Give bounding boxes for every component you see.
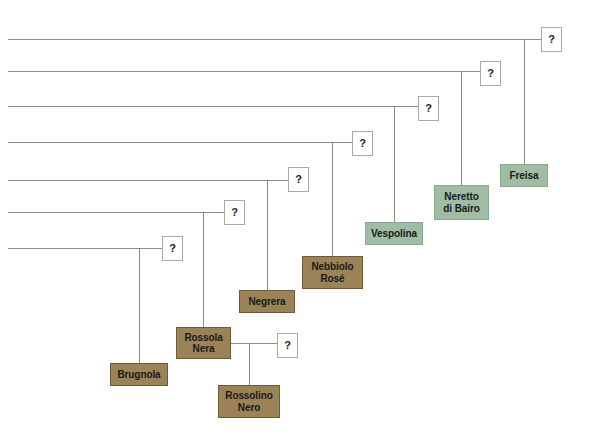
variety-node-vespolina[interactable]: Vespolina [365,222,423,245]
variety-node-brugnola[interactable]: Brugnola [110,363,168,386]
unknown-parent-node-q4[interactable]: ? [352,131,373,156]
variety-node-label-line: di Bairo [443,203,479,214]
variety-node-label-line: Nebbiolo [312,261,354,272]
unknown-parent-node-q3[interactable]: ? [418,96,439,121]
variety-node-label-line: Nera [184,343,222,354]
connector-vline [267,180,268,290]
connector-hline [8,142,352,143]
connector-hline [8,180,288,181]
variety-node-label-line: Nero [225,402,272,413]
connector-hline [8,212,224,213]
unknown-parent-node-q7[interactable]: ? [162,236,183,261]
variety-node-nebbiolo-rose[interactable]: NebbioloRosé [302,256,363,289]
connector-vline [394,106,395,222]
variety-node-negrera[interactable]: Negrera [239,290,295,313]
unknown-parent-node-q8[interactable]: ? [277,333,298,358]
unknown-parent-node-q6[interactable]: ? [224,200,245,225]
variety-node-rossola-nera[interactable]: RossolaNera [176,327,231,359]
connector-vline [139,248,140,363]
variety-node-freisa[interactable]: Freisa [500,164,548,187]
unknown-parent-node-q5[interactable]: ? [288,167,309,192]
connector-hline [8,71,480,72]
variety-node-label-line: Neretto [443,191,479,202]
variety-node-label: Vespolina [371,228,417,239]
variety-node-label: Brugnola [117,369,160,380]
unknown-parent-node-q1[interactable]: ? [541,27,562,52]
connector-vline [461,71,462,185]
variety-node-label-line: Rosé [312,273,354,284]
variety-node-label: Negrera [248,296,285,307]
connector-vline [332,142,333,256]
connector-vline [524,39,525,164]
variety-node-label: RossolaNera [184,332,222,354]
variety-node-label: Freisa [510,170,539,181]
variety-node-label-line: Rossola [184,332,222,343]
pedigree-diagram: ????????FreisaNerettodi BairoVespolinaNe… [0,0,601,440]
variety-node-label-line: Brugnola [117,369,160,380]
variety-node-label: Nerettodi Bairo [443,191,479,213]
connector-hline [8,39,541,40]
variety-node-label: RossolinoNero [225,390,272,412]
variety-node-neretto-di-bairo[interactable]: Nerettodi Bairo [434,185,489,220]
connector-hline [231,343,277,344]
connector-vline [203,212,204,327]
variety-node-label: NebbioloRosé [312,261,354,283]
variety-node-rossolino-nero[interactable]: RossolinoNero [218,385,280,418]
connector-vline [249,343,250,385]
variety-node-label-line: Negrera [248,296,285,307]
connector-hline [8,106,418,107]
variety-node-label-line: Rossolino [225,390,272,401]
variety-node-label-line: Freisa [510,170,539,181]
unknown-parent-node-q2[interactable]: ? [480,61,501,86]
variety-node-label-line: Vespolina [371,228,417,239]
